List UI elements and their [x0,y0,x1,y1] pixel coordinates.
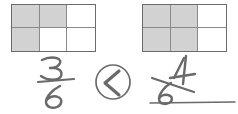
circle-outline [96,65,130,99]
grid-cell-left-r2c1 [12,28,40,51]
denominator-six-glyph [46,86,61,108]
grid-cell-left-r2c3 [67,28,95,51]
numerator-three-glyph [41,58,61,80]
grid-cell-left-r1c2 [40,5,68,28]
grid-cell-left-r1c1 [12,5,40,28]
worksheet-canvas [0,0,238,114]
right-fraction-grid [142,4,227,52]
fraction-bar [38,79,74,82]
writing-baseline-rule [150,100,238,106]
fraction-bar-tilted [152,78,194,92]
left-fraction-grid [11,4,96,52]
baseline-line [150,102,235,103]
grid-cell-right-r1c2 [171,5,199,28]
less-than-icon [105,71,119,95]
comparison-symbol-circle[interactable] [94,63,134,103]
grid-cell-right-r1c3 [198,5,226,28]
left-handwritten-fraction [36,54,80,110]
grid-cell-left-r2c2 [40,28,68,51]
grid-cell-right-r2c2 [171,28,199,51]
grid-cell-right-r1c1 [143,5,171,28]
grid-cell-right-r2c1 [143,28,171,51]
grid-cell-right-r2c3 [198,28,226,51]
grid-cell-left-r1c3 [67,5,95,28]
